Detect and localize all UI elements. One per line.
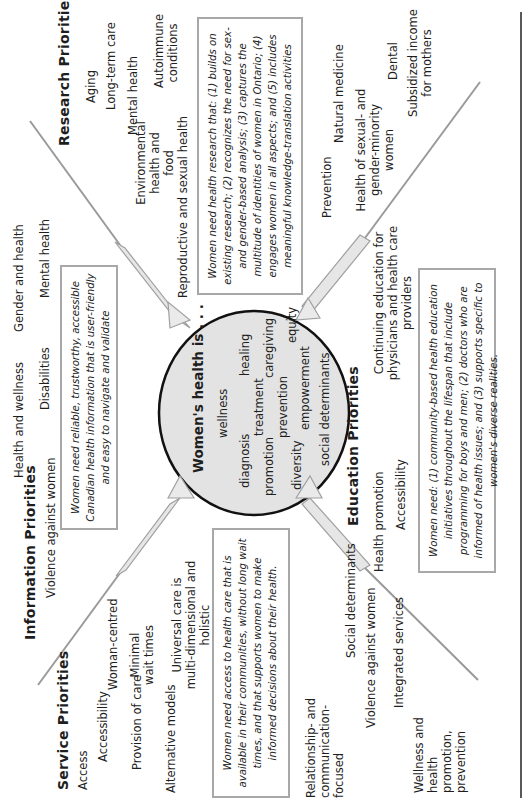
center-word: promotion — [262, 437, 276, 496]
service-item: Woman-centred — [106, 599, 120, 690]
information-item: Violence against women — [44, 458, 58, 599]
service-item: Minimal wait times — [128, 625, 156, 685]
center-word: equity — [285, 307, 299, 343]
service-item: Integrated services — [392, 597, 406, 708]
education-item: Accessibility — [394, 459, 408, 530]
education-needs-box: Women need: (1) community-based health e… — [418, 268, 496, 573]
center-word: caregiving — [262, 318, 276, 378]
research-item: Dental — [386, 42, 400, 80]
information-item: Disabilities — [38, 347, 52, 410]
center-word: diagnosis — [238, 434, 252, 488]
research-item: Aging — [84, 70, 98, 103]
center-title: Women's health is . . . — [190, 304, 206, 473]
service-needs-box: Women need access to health care that is… — [212, 528, 290, 798]
service-item: Social determinants — [344, 543, 358, 658]
service-item: Violence against women — [364, 588, 378, 729]
research-item: Long-term care — [104, 22, 118, 110]
research-item: Health of sexual- and gender-minority wo… — [354, 85, 396, 215]
research-item: Subsidized income for mothers — [406, 8, 434, 118]
service-connector-line — [365, 568, 478, 680]
service-item: Universal care is multi-dimensional and … — [170, 560, 212, 690]
service-item: Accessibility — [96, 691, 110, 762]
research-needs-box: Women need health research that: (1) bui… — [197, 17, 303, 295]
research-item: Environmental health and food — [134, 118, 176, 208]
service-item: Access — [76, 751, 90, 790]
service-item: Alternative models — [164, 684, 178, 793]
education-heading: Education Priorities — [345, 366, 361, 526]
center-word: diversity — [290, 440, 304, 490]
education-item: Continuing education for physicians and … — [372, 203, 414, 403]
diagram-canvas: Women's health is . . . wellness healing… — [0, 0, 523, 798]
information-item: Gender and health — [12, 224, 26, 332]
research-heading: Research Priorities — [56, 0, 72, 146]
service-item: Wellness and health promotion, preventio… — [412, 693, 468, 793]
center-word: social determinants — [318, 353, 332, 466]
education-item: Health promotion — [372, 472, 386, 573]
service-item: Relationship- and communication-focused — [304, 678, 346, 798]
research-item: Prevention — [320, 157, 334, 218]
information-item: Health and wellness — [12, 362, 26, 478]
service-heading: Service Priorities — [55, 651, 71, 790]
information-heading: Information Priorities — [22, 465, 38, 640]
center-word: prevention — [276, 376, 290, 438]
center-word: treatment — [252, 378, 266, 436]
research-item: Natural medicine — [332, 44, 346, 143]
education-arrow-shaft — [302, 235, 370, 312]
center-word: wellness — [216, 389, 230, 438]
information-item: Mental health — [38, 219, 52, 298]
information-needs-box: Women need reliable, trustworthy, access… — [60, 265, 118, 530]
research-item: Autoimmune conditions — [152, 18, 180, 88]
service-item: Provision of care — [130, 675, 144, 770]
center-word: healing — [238, 334, 252, 376]
research-item: Reproductive and sexual health — [176, 116, 190, 298]
center-word: empowerment — [298, 346, 312, 430]
